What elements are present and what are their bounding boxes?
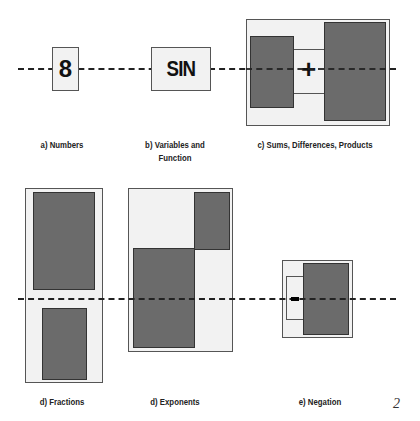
denominator-block	[42, 308, 87, 380]
number-symbol: 8	[59, 55, 72, 83]
page-number: 2	[393, 396, 400, 412]
label-fractions: d) Fractions	[29, 395, 95, 408]
left-operand-block	[250, 36, 294, 108]
label-variables: b) Variables and Function	[138, 138, 212, 164]
numerator-block	[33, 192, 95, 290]
function-box: SIN	[151, 47, 211, 91]
label-sums: c) Sums, Differences, Products	[254, 138, 377, 151]
label-numbers: a) Numbers	[29, 138, 95, 151]
baseline-row2	[18, 298, 396, 300]
exponent-block	[194, 192, 230, 250]
function-symbol: SIN	[167, 56, 196, 82]
right-operand-block	[324, 22, 386, 121]
label-exponents: d) Exponents	[142, 395, 208, 408]
label-negation: e) Negation	[287, 395, 353, 408]
baseline-row1-overlay	[246, 68, 396, 70]
minus-operator	[291, 297, 299, 301]
number-box: 8	[52, 47, 79, 91]
